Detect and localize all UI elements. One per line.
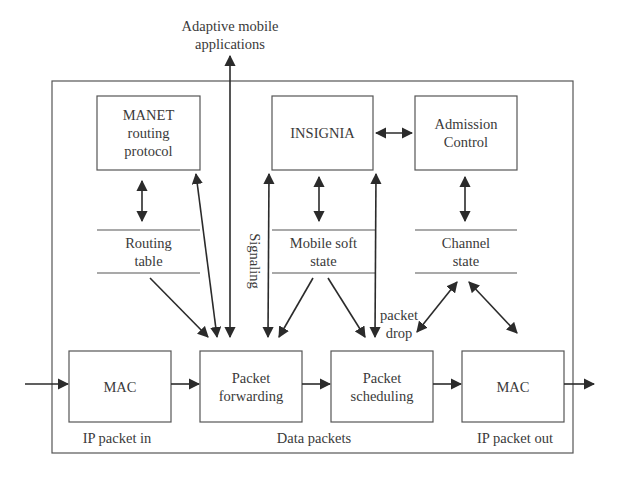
mac-in-line1: MAC bbox=[103, 378, 136, 396]
ip-packet-out-label: IP packet out bbox=[462, 429, 568, 447]
signaling-label: Signaling bbox=[246, 226, 264, 296]
mac-out-box: MAC bbox=[462, 351, 564, 422]
scheduling-line2: scheduling bbox=[351, 387, 414, 405]
adaptive-apps-line1: Adaptive mobile bbox=[181, 17, 278, 35]
admission-line2: Control bbox=[444, 133, 488, 151]
packet-drop-line2: drop bbox=[386, 324, 413, 342]
admission-control-box: Admission Control bbox=[415, 96, 517, 170]
arrow-signaling bbox=[268, 174, 269, 337]
adaptive-apps-line2: applications bbox=[195, 35, 265, 53]
channel-state: Channel state bbox=[415, 231, 517, 273]
adaptive-apps-label: Adaptive mobile applications bbox=[160, 17, 300, 53]
arrow-soft-state-to-scheduling bbox=[328, 278, 365, 337]
manet-line2: routing bbox=[128, 124, 170, 142]
arrow-soft-state-to-forwarding bbox=[279, 278, 313, 337]
data-packets-label: Data packets bbox=[264, 429, 364, 447]
mobile-soft-state-line1: Mobile soft bbox=[290, 234, 357, 252]
packet-drop-line1: packet bbox=[380, 306, 418, 324]
ip-packet-in-label: IP packet in bbox=[72, 429, 162, 447]
forwarding-line2: forwarding bbox=[219, 387, 283, 405]
routing-table: Routing table bbox=[97, 231, 200, 273]
mobile-soft-state: Mobile soft state bbox=[272, 231, 375, 273]
mac-out-line1: MAC bbox=[496, 378, 529, 396]
manet-line3: protocol bbox=[124, 142, 172, 160]
routing-table-line2: table bbox=[134, 252, 162, 270]
packet-scheduling-box: Packet scheduling bbox=[331, 351, 433, 422]
admission-line1: Admission bbox=[435, 115, 498, 133]
routing-table-line1: Routing bbox=[125, 234, 172, 252]
scheduling-line1: Packet bbox=[363, 369, 402, 387]
packet-forwarding-box: Packet forwarding bbox=[200, 351, 302, 422]
insignia-architecture-diagram: Adaptive mobile applications MANET routi… bbox=[0, 0, 621, 478]
insignia-line1: INSIGNIA bbox=[290, 124, 354, 142]
arrow-channel-state-mac-out bbox=[469, 282, 517, 333]
forwarding-line1: Packet bbox=[232, 369, 271, 387]
arrow-routing-table-to-forwarding bbox=[150, 278, 208, 337]
mobile-soft-state-line2: state bbox=[310, 252, 337, 270]
packet-drop-label: packet drop bbox=[374, 306, 424, 342]
channel-state-line2: state bbox=[453, 252, 480, 270]
manet-line1: MANET bbox=[123, 106, 175, 124]
insignia-box: INSIGNIA bbox=[272, 96, 373, 170]
channel-state-line1: Channel bbox=[442, 234, 490, 252]
mac-in-box: MAC bbox=[69, 351, 171, 422]
manet-routing-protocol-box: MANET routing protocol bbox=[97, 96, 200, 170]
